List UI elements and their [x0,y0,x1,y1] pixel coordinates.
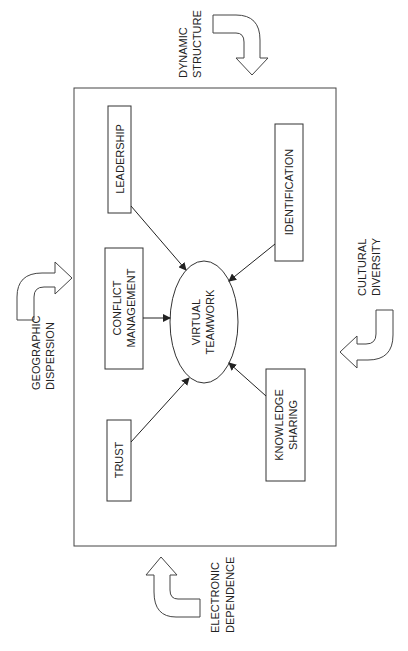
knowledge-connector [229,363,266,396]
trust-box: TRUST [107,420,131,501]
conflict-management-box: CONFLICT MANAGEMENT [105,248,143,369]
cultural-label-2: DIVERSITY [370,237,382,296]
electronic-label-2: DEPENDENCE [224,557,236,633]
virtual-teamwork-node: VIRTUAL TEAMWORK [170,261,238,383]
knowledge-label-2: SHARING [287,400,299,450]
electronic-dependence-arrow-icon [146,557,200,617]
dynamic-label-1: DYNAMIC [177,27,189,78]
center-label-2: TEAMWORK [204,289,216,354]
identification-connector [229,244,275,281]
knowledge-label-1: KNOWLEDGE [273,389,285,461]
leadership-box: LEADERSHIP [108,106,131,213]
electronic-label-1: ELECTRONIC [209,562,221,633]
dynamic-structure-arrow-icon [213,15,268,75]
virtual-teamwork-diagram: LEADERSHIP IDENTIFICATION CONFLICT MANAG… [0,0,408,651]
conflict-label-2: MANAGEMENT [125,268,137,347]
identification-label: IDENTIFICATION [283,149,295,236]
geographic-label-2: DISPERSION [44,322,56,390]
conflict-label-1: CONFLICT [111,280,123,335]
dynamic-label-2: STRUCTURE [191,10,203,78]
identification-box: IDENTIFICATION [275,124,303,261]
geographic-label-1: GEOGRAPHIC [30,315,42,390]
center-label-1: VIRTUAL [190,299,202,345]
cultural-diversity-arrow-icon [340,310,393,368]
knowledge-sharing-box: KNOWLEDGE SHARING [266,369,305,481]
cultural-label-1: CULTURAL [356,239,368,296]
trust-label: TRUST [113,441,125,478]
trust-connector [131,378,189,442]
leadership-label: LEADERSHIP [114,124,126,194]
geographic-dispersion-arrow-icon [17,262,72,320]
